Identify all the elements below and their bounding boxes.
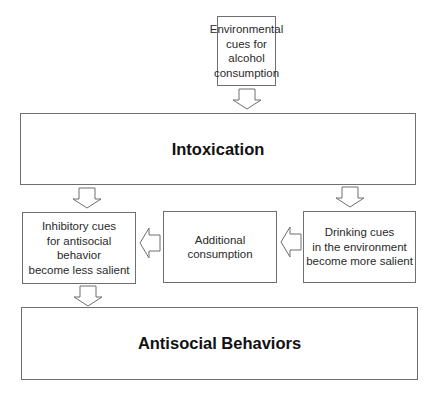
node-drinking-cues: Drinking cues in the environment become … [303,211,416,283]
arrow-down-icon [72,285,104,307]
node-additional-consumption: Additional consumption [163,211,277,283]
node-environmental-cues-label: Environmental cues for alcohol consumpti… [210,22,284,80]
node-additional-consumption-label: Additional consumption [187,233,252,262]
arrow-down-icon [334,186,366,208]
arrow-left-icon [280,225,302,259]
node-drinking-cues-label: Drinking cues in the environment become … [306,225,413,269]
node-inhibitory-cues-label: Inhibitory cues for antisocial behavior … [29,219,130,277]
arrow-left-icon [139,226,161,260]
node-intoxication: Intoxication [20,113,416,185]
arrow-down-icon [231,88,263,110]
node-antisocial-behaviors-label: Antisocial Behaviors [138,334,301,353]
node-intoxication-label: Intoxication [172,140,265,159]
node-inhibitory-cues: Inhibitory cues for antisocial behavior … [22,212,136,284]
node-antisocial-behaviors: Antisocial Behaviors [21,307,418,380]
node-environmental-cues: Environmental cues for alcohol consumpti… [217,16,276,86]
arrow-down-icon [71,187,103,209]
